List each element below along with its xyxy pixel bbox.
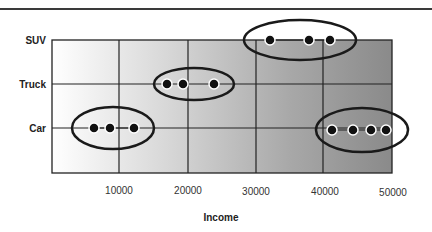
x-tick-20000: 20000	[174, 185, 202, 196]
data-point	[129, 123, 139, 133]
data-point	[366, 125, 376, 135]
data-point	[265, 35, 275, 45]
data-point	[327, 125, 337, 135]
x-axis-title: Income	[203, 212, 238, 223]
data-point	[348, 125, 358, 135]
chart: SUV Truck Car 10000 20000 30000 40000 50…	[0, 0, 432, 232]
data-point	[105, 123, 115, 133]
x-tick-50000: 50000	[379, 187, 407, 198]
data-point	[209, 79, 219, 89]
x-tick-30000: 30000	[242, 186, 270, 197]
data-point	[162, 79, 172, 89]
x-tick-40000: 40000	[311, 186, 339, 197]
y-label-car: Car	[29, 123, 46, 134]
data-point	[325, 35, 335, 45]
data-point	[304, 35, 314, 45]
y-label-suv: SUV	[25, 35, 46, 46]
data-point	[178, 79, 188, 89]
y-label-truck: Truck	[19, 79, 46, 90]
x-tick-10000: 10000	[105, 185, 133, 196]
data-point	[381, 125, 391, 135]
data-point	[89, 123, 99, 133]
